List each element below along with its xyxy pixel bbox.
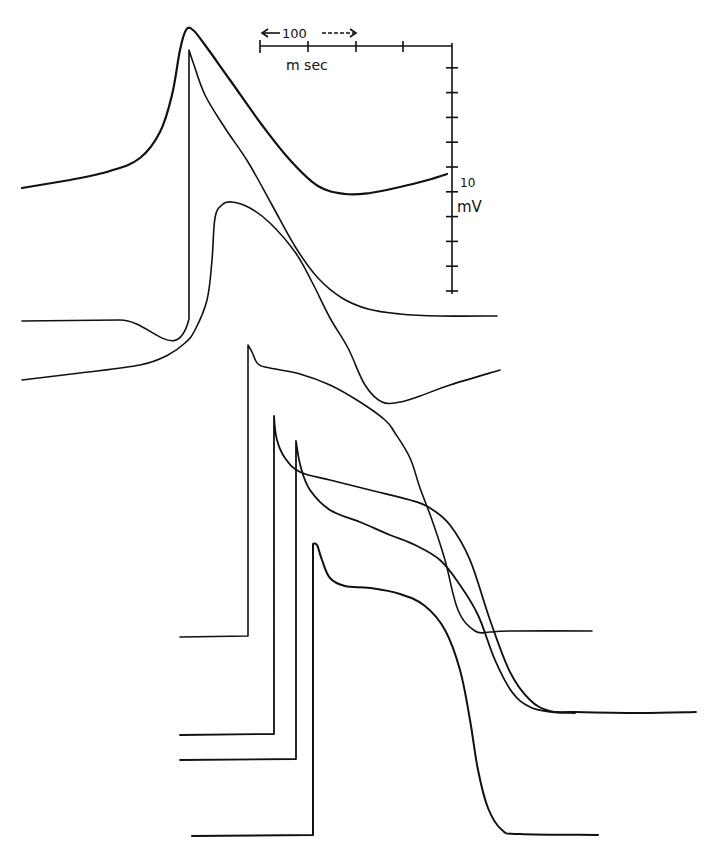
scale-bars: 100 m sec 10 mV	[260, 26, 483, 294]
trace-3-line	[22, 202, 500, 404]
time-scale-value: 100	[282, 26, 307, 41]
trace-2-line	[22, 50, 497, 341]
voltage-scale-value: 10	[460, 176, 475, 190]
trace-1-line	[22, 28, 447, 195]
voltage-scale-unit: mV	[457, 198, 483, 216]
trace-4-line	[180, 345, 592, 637]
action-potential-figure: 100 m sec 10 mV	[0, 0, 711, 853]
trace-6-line	[180, 441, 575, 760]
trace-5-line	[180, 416, 696, 735]
trace-7-line	[192, 543, 598, 836]
traces-group	[22, 28, 696, 836]
time-scale-unit: m sec	[286, 57, 328, 73]
